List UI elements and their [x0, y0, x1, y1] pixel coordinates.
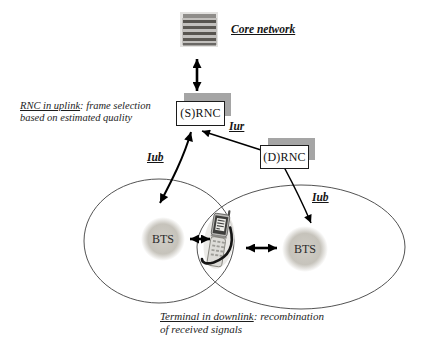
terminal-downlink-annotation-lead: Terminal in downlink	[160, 310, 254, 322]
iub-left-label: Iub	[147, 151, 164, 163]
bts-left-label: BTS	[152, 232, 174, 247]
bts-right-label: BTS	[294, 242, 316, 257]
rnc-uplink-annotation-lead: RNC in uplink	[20, 100, 80, 111]
iur-arrow	[202, 131, 261, 150]
iub-left-arrow	[160, 132, 191, 203]
drnc-box: (D)RNC	[260, 145, 309, 169]
diagram-shapes	[0, 0, 422, 352]
iur-label: Iur	[229, 120, 244, 132]
server-stack-icon	[180, 12, 218, 47]
bts-left-node: BTS	[141, 217, 185, 261]
terminal-downlink-annotation-rest: : recombination	[254, 310, 324, 322]
network-diagram: Core network (S)RNC (D)RNC BTS BTS Iur I…	[0, 0, 422, 352]
rnc-uplink-annotation-rest: : frame selection	[80, 100, 151, 111]
terminal-downlink-annotation: Terminal in downlink: recombination of r…	[160, 310, 335, 336]
rnc-uplink-annotation: RNC in uplink: frame selection based on …	[20, 100, 180, 124]
drnc-label: (D)RNC	[263, 150, 306, 165]
iub-right-arrow	[284, 167, 311, 223]
iub-right-label: Iub	[312, 191, 329, 203]
rnc-uplink-annotation-line2: based on estimated quality	[20, 112, 132, 123]
srnc-box: (S)RNC	[176, 101, 225, 126]
bts-right-node: BTS	[282, 226, 328, 272]
core-network-label: Core network	[231, 23, 295, 35]
srnc-label: (S)RNC	[180, 106, 221, 121]
terminal-downlink-annotation-line2: of received signals	[160, 323, 242, 335]
